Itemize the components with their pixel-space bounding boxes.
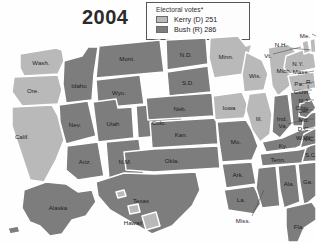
legend-entry-kerry: Kerry (D) 251: [156, 15, 245, 24]
state-vermont: [302, 40, 310, 54]
state-california: [12, 105, 64, 182]
leader-maine: [312, 34, 316, 36]
legend-label-kerry: Kerry (D) 251: [174, 15, 217, 24]
state-iowa: [213, 92, 248, 120]
alaska-islands: [8, 226, 20, 234]
state-pennsylvania: [288, 72, 316, 92]
state-nevada: [59, 101, 96, 144]
page-title: 2004: [82, 6, 129, 29]
state-north-dakota: [166, 38, 208, 70]
state-indiana: [272, 94, 292, 138]
state-florida: [286, 202, 316, 242]
state-south-dakota: [167, 66, 211, 96]
state-kansas: [150, 118, 218, 148]
legend-heading: Electoral votes*: [156, 6, 245, 13]
state-washington: [20, 48, 64, 76]
state-alabama: [278, 164, 300, 208]
state-montana: [96, 40, 164, 78]
state-georgia: [298, 162, 316, 206]
us-map: Wash. Ore. Calif. Nev. Idaho Mont. Wyo. …: [0, 30, 316, 243]
state-wisconsin: [242, 52, 268, 92]
state-hawaii: [116, 190, 126, 198]
state-alaska: [22, 182, 96, 236]
state-nebraska: [146, 93, 214, 120]
state-arizona: [66, 142, 104, 180]
legend-swatch-kerry: [156, 16, 168, 23]
state-oregon: [12, 75, 62, 106]
state-mississippi: [256, 166, 280, 208]
state-oklahoma: [124, 146, 220, 172]
state-idaho: [63, 47, 98, 103]
state-arkansas: [222, 162, 256, 188]
electoral-map-figure: 2004 Electoral votes* Kerry (D) 251 Bush…: [0, 0, 316, 243]
hawaii-island-3: [142, 212, 160, 230]
hawaii-island-2: [128, 204, 140, 214]
state-new-hampshire: [310, 38, 316, 53]
